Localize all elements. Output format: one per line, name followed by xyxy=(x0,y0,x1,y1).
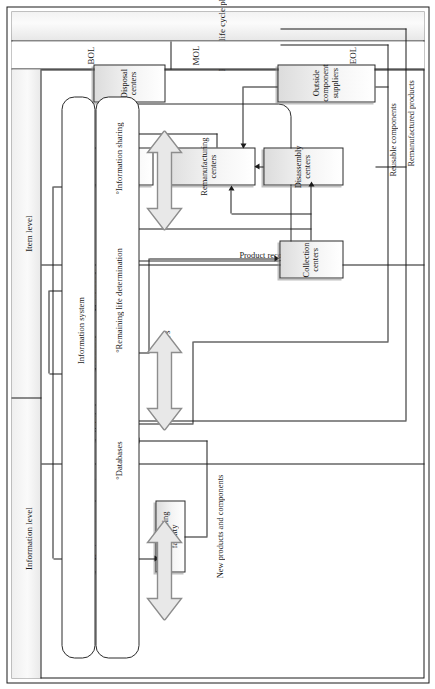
flow-label-remanufactured-products: Remanufactured products xyxy=(406,16,415,166)
connector-reman-to-disposal-h xyxy=(216,133,217,147)
arrow-suppliers-to-reman xyxy=(240,143,246,148)
connector-mf-left xyxy=(206,440,207,536)
arrow-disassembly-to-reman xyxy=(254,163,259,169)
connector-reusable-top xyxy=(387,44,388,341)
box-outside-component-suppliers-label: Outside component suppliers xyxy=(312,64,340,101)
information-system-label: Information system xyxy=(75,230,85,430)
connector-collection-to-disassembly xyxy=(310,185,311,240)
box-collection-centers[interactable]: Collection centers xyxy=(279,240,343,278)
connector-materials-long xyxy=(52,186,53,558)
box-disassembly-centers[interactable]: Disassembly centers xyxy=(263,147,343,185)
arrow-collection-to-disassembly xyxy=(308,181,314,186)
flow-label-reusable-components: Reusable components xyxy=(388,26,397,176)
figure-canvas: Product life cycle phases EOL MOL BOL It… xyxy=(0,0,435,689)
box-outside-component-suppliers[interactable]: Outside component suppliers xyxy=(277,64,375,102)
connector-collection-to-reman-v xyxy=(231,213,311,214)
connector-reusable-left-stub xyxy=(280,44,388,45)
double-arrow-mol xyxy=(145,330,183,430)
connector-mf-to-retail xyxy=(137,440,207,441)
connector-suppliers-top xyxy=(375,86,388,87)
arrow-collection-to-reman xyxy=(228,185,234,190)
connector-suppliers-to-reman xyxy=(242,86,243,147)
phase-divider-eol-mol-band xyxy=(170,41,171,69)
info-bullet-databases: °Databases xyxy=(113,380,123,540)
flow-label-new-products: New products and components xyxy=(215,470,225,582)
connector-reusable-down xyxy=(193,341,388,342)
box-collection-centers-label: Collection centers xyxy=(302,242,321,277)
level-label-item: Item level xyxy=(23,69,33,397)
double-arrow-eol xyxy=(145,130,183,230)
connector-reman-products-top xyxy=(405,28,406,420)
double-arrow-bol xyxy=(145,520,183,620)
connector-mf-up xyxy=(184,536,207,537)
phases-title-band: Product life cycle phases xyxy=(11,11,424,41)
connector-reman-products-source xyxy=(375,166,406,167)
connector-reusable-h2 xyxy=(192,341,193,423)
plm-closed-loop-diagram: Product life cycle phases EOL MOL BOL It… xyxy=(0,0,435,689)
level-label-information: Information level xyxy=(23,398,33,678)
phase-label-mol: MOL xyxy=(190,12,200,98)
connector-suppliers-down xyxy=(243,86,277,87)
connector-collection-to-reman-h xyxy=(230,190,231,213)
connector-reman-products-left-stub xyxy=(280,28,406,29)
info-bullet-information-sharing: °Information sharing xyxy=(113,78,123,238)
